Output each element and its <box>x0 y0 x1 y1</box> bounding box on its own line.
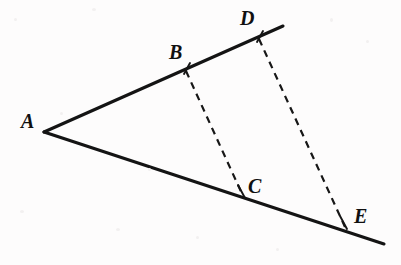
paper-speck <box>196 236 199 239</box>
paper-speck <box>20 210 24 213</box>
lower-ray-line <box>44 132 384 244</box>
label-point-b: B <box>169 42 182 62</box>
paper-speck <box>148 168 151 171</box>
geometry-figure: A B D C E <box>0 0 401 265</box>
paper-speck <box>330 18 333 22</box>
geometry-canvas <box>0 0 401 265</box>
label-point-e: E <box>354 206 367 226</box>
label-point-c: C <box>248 176 261 196</box>
paper-speck <box>276 248 279 251</box>
segment-bc-dashed <box>186 71 243 196</box>
tick-point-e <box>340 216 347 229</box>
label-point-d: D <box>240 8 254 28</box>
upper-ray-line <box>44 26 283 132</box>
paper-speck <box>60 112 63 115</box>
segment-de-dashed <box>259 39 345 227</box>
paper-speck <box>366 40 369 43</box>
paper-speck <box>14 18 17 21</box>
label-point-a: A <box>21 111 34 131</box>
paper-speck <box>116 228 120 231</box>
paper-speck <box>92 8 96 11</box>
